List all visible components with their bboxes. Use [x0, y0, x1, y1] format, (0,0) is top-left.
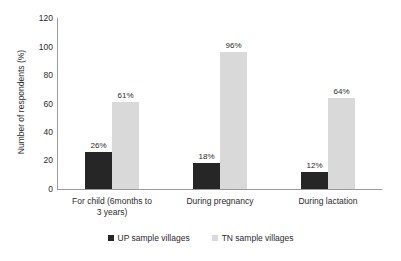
category-label-for-child: For child (6months to 3 years): [53, 196, 171, 218]
legend-item-up-sample-villages[interactable]: UP sample villages: [108, 233, 190, 243]
bar-up-during-pregnancy[interactable]: [193, 163, 220, 189]
bar-group-for-child: 26% 61% For child (6months to 3 years): [58, 18, 166, 189]
y-tick-80: 80: [44, 70, 53, 80]
plot-area: 120 100 80 60 40 20 0 26% 61% For child …: [57, 18, 382, 190]
bar-value-label-up-0: 26%: [90, 141, 106, 150]
category-label-line2: 3 years): [53, 207, 171, 218]
y-tick-60: 60: [44, 99, 53, 109]
bar-wrap-tn-1: 96%: [220, 18, 247, 189]
bar-group-during-lactation: 12% 64% During lactation: [274, 18, 382, 189]
chart-legend: UP sample villages TN sample villages: [0, 233, 401, 243]
y-tick-120: 120: [39, 13, 53, 23]
bar-up-for-child[interactable]: [85, 152, 112, 189]
bar-value-label-up-2: 12%: [306, 161, 322, 170]
bar-value-label-tn-2: 64%: [333, 87, 349, 96]
category-label-during-lactation: During lactation: [269, 196, 387, 207]
category-label-line1: During lactation: [269, 196, 387, 207]
y-tick-20: 20: [44, 155, 53, 165]
bar-value-label-tn-0: 61%: [117, 91, 133, 100]
bar-value-label-tn-1: 96%: [225, 41, 241, 50]
bar-tn-during-lactation[interactable]: [328, 98, 355, 189]
bar-wrap-tn-0: 61%: [112, 18, 139, 189]
bar-wrap-up-0: 26%: [85, 18, 112, 189]
legend-swatch-icon-tn: [212, 235, 218, 241]
bar-chart: Number of respondents (%) 120 100 80 60 …: [0, 0, 401, 261]
y-axis-title: Number of respondents (%): [16, 17, 26, 187]
bar-wrap-up-1: 18%: [193, 18, 220, 189]
y-tick-0: 0: [48, 184, 53, 194]
bar-value-label-up-1: 18%: [198, 152, 214, 161]
legend-swatch-icon-up: [108, 235, 114, 241]
category-label-during-pregnancy: During pregnancy: [161, 196, 279, 207]
legend-label-up: UP sample villages: [118, 233, 190, 243]
bar-tn-for-child[interactable]: [112, 102, 139, 189]
bar-wrap-tn-2: 64%: [328, 18, 355, 189]
legend-label-tn: TN sample villages: [222, 233, 294, 243]
bar-group-during-pregnancy: 18% 96% During pregnancy: [166, 18, 274, 189]
category-label-line1: For child (6months to: [53, 196, 171, 207]
legend-item-tn-sample-villages[interactable]: TN sample villages: [212, 233, 294, 243]
category-label-line1: During pregnancy: [161, 196, 279, 207]
bar-up-during-lactation[interactable]: [301, 172, 328, 189]
y-tick-40: 40: [44, 127, 53, 137]
y-tick-100: 100: [39, 42, 53, 52]
bar-tn-during-pregnancy[interactable]: [220, 52, 247, 189]
bar-wrap-up-2: 12%: [301, 18, 328, 189]
